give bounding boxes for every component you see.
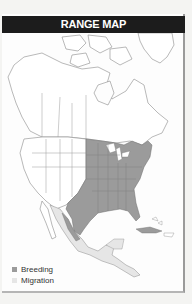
canada — [8, 53, 168, 145]
migration-swatch-icon — [12, 278, 17, 283]
legend-item-breeding: Breeding — [12, 264, 54, 275]
legend-item-migration: Migration — [12, 275, 54, 286]
cuba — [136, 227, 162, 233]
legend-label: Breeding — [21, 265, 53, 274]
map-legend: Breeding Migration — [12, 264, 54, 286]
north-america-map — [2, 33, 185, 291]
range-map-title: RANGE MAP — [2, 16, 185, 33]
range-map-card: RANGE MAP — [2, 14, 185, 293]
breeding-swatch-icon — [12, 267, 17, 272]
greenland — [138, 33, 174, 63]
legend-label: Migration — [21, 276, 54, 285]
